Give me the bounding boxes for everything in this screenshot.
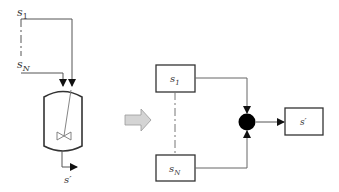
mixer-node	[239, 114, 256, 131]
output-box-label: s′	[300, 117, 307, 127]
connector-s1-to-mixer	[195, 78, 247, 113]
connector-sN-to-mixer	[195, 131, 247, 168]
inlet-sN-label: sN	[17, 58, 31, 73]
mixing-block-diagram: s1 sN s′	[156, 65, 323, 181]
reactor-vessel	[44, 92, 82, 152]
stream-box-sN	[156, 155, 195, 181]
stirred-tank-system: s1 sN s′	[17, 6, 82, 185]
inlet-sN-stream	[21, 73, 63, 86]
transform-arrow-icon	[125, 109, 151, 131]
outlet-stream	[62, 151, 77, 167]
inlet-s1-stream	[21, 19, 72, 86]
outlet-label: s′	[64, 174, 72, 185]
diagram-canvas: s1 sN s′ s1 sN s′	[0, 0, 339, 192]
